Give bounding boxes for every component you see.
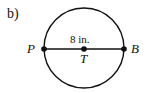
point-p-dot <box>41 46 47 52</box>
part-label: b) <box>7 6 19 22</box>
point-b-label: B <box>131 41 139 56</box>
point-t-label: T <box>80 51 88 66</box>
point-b-dot <box>121 46 127 52</box>
circle-diagram: b) 8 in. P T B <box>0 0 150 93</box>
point-p-label: P <box>26 41 35 56</box>
diameter-label: 8 in. <box>70 33 90 45</box>
